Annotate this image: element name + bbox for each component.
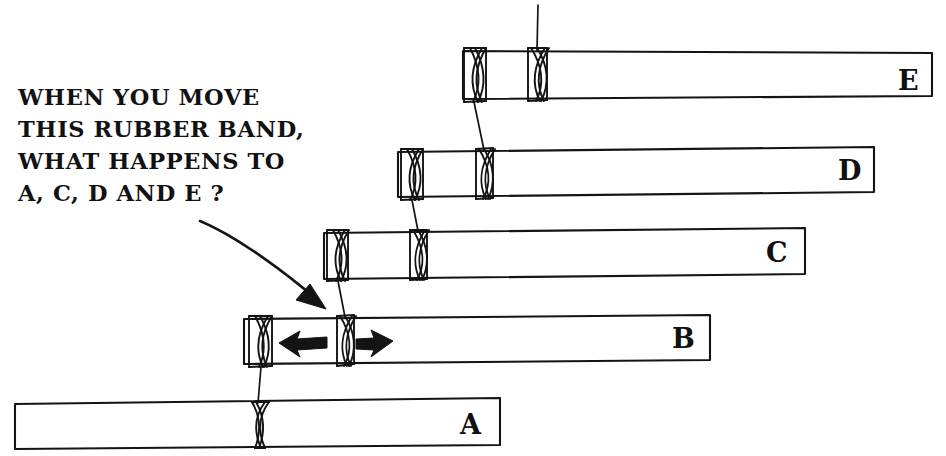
bar-d: D (398, 147, 874, 200)
bar-a-label: A (459, 409, 482, 440)
question-line-3: WHAT HAPPENS TO (17, 148, 285, 174)
pointer-arrow-head (296, 284, 326, 309)
bar-c-band-middle[interactable] (410, 230, 429, 280)
bar-c: C (324, 228, 805, 281)
bar-a-band-1[interactable] (252, 402, 269, 448)
arrow-right-icon (356, 330, 393, 357)
bar-d-outline (398, 147, 874, 197)
arrow-left-icon (279, 331, 327, 357)
bar-c-outline (324, 228, 805, 279)
bar-d-band-left[interactable] (401, 149, 423, 200)
bar-d-label: D (838, 155, 862, 186)
question-line-2: THIS RUBBER BAND, (18, 116, 304, 142)
bar-b-label: B (672, 323, 695, 354)
connector-d-to-c (412, 200, 418, 231)
pointer-arrow-curve (200, 221, 321, 303)
bar-c-label: C (766, 237, 788, 268)
bar-b-band-middle[interactable] (337, 315, 356, 366)
bar-e-band-left[interactable] (464, 48, 486, 102)
question-text-block: WHEN YOU MOVE THIS RUBBER BAND, WHAT HAP… (17, 84, 304, 206)
bar-e: E (463, 48, 932, 102)
connector-b-to-a (258, 367, 261, 403)
connector-e-to-d (474, 102, 484, 150)
bar-d-band-middle[interactable] (476, 148, 495, 199)
connector-e-top-stem (537, 5, 538, 50)
rubber-band-diagram: WHEN YOU MOVE THIS RUBBER BAND, WHAT HAP… (0, 0, 946, 456)
question-line-1: WHEN YOU MOVE (17, 84, 260, 110)
bar-b-band-left[interactable] (249, 316, 272, 367)
bar-e-band-middle[interactable] (528, 48, 549, 101)
pointer-arrow (200, 221, 326, 309)
connector-c-to-b (338, 281, 345, 317)
diagram-canvas: WHEN YOU MOVE THIS RUBBER BAND, WHAT HAP… (0, 0, 946, 456)
bar-b: B (244, 315, 710, 367)
bar-e-label: E (898, 65, 919, 96)
bar-c-band-left[interactable] (327, 230, 349, 281)
bar-a: A (15, 398, 500, 449)
bar-e-outline (463, 51, 932, 99)
question-line-4: A, C, D AND E ? (17, 180, 224, 206)
